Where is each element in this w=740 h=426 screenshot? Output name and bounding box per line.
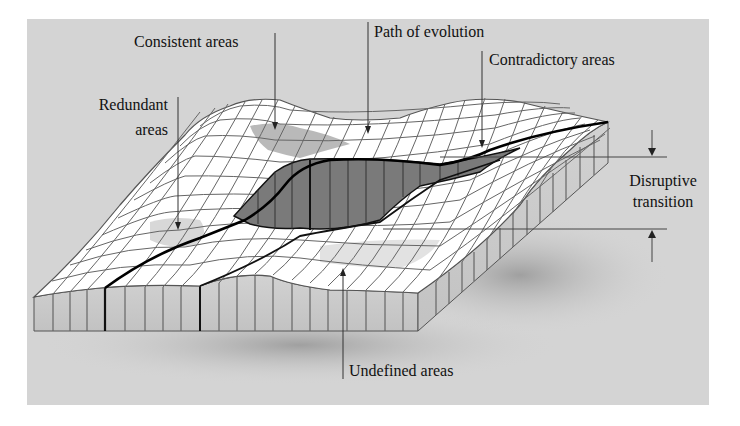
- label-disruptive-line1: Disruptive: [618, 172, 708, 190]
- diagram-figure: Consistent areas Path of evolution Contr…: [0, 0, 740, 426]
- label-undefined-areas: Undefined areas: [349, 362, 453, 380]
- label-contradictory-areas: Contradictory areas: [489, 51, 615, 69]
- label-disruptive-transition: Disruptive transition: [618, 172, 708, 211]
- label-consistent-areas: Consistent areas: [134, 33, 238, 51]
- label-redundant-line1: Redundant: [80, 96, 168, 114]
- label-redundant-areas: Redundant areas: [80, 96, 168, 139]
- label-redundant-line2: areas: [80, 121, 168, 139]
- label-path-of-evolution: Path of evolution: [374, 23, 484, 41]
- label-disruptive-line2: transition: [618, 193, 708, 211]
